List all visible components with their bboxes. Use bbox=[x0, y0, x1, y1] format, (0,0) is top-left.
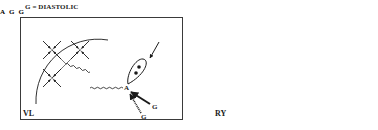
junction-label: A bbox=[124, 84, 129, 92]
wavy-axon bbox=[66, 63, 123, 88]
diagram-canvas: A G G bbox=[0, 0, 378, 130]
input-arrow-icon bbox=[150, 42, 159, 58]
nucleus-dot bbox=[137, 65, 141, 69]
cell-body bbox=[128, 59, 147, 84]
panel-label-ry: RY bbox=[215, 109, 226, 118]
arc-boundary bbox=[36, 39, 108, 104]
g-label: G bbox=[141, 113, 147, 121]
g-label: G bbox=[152, 103, 158, 111]
panel-label-vl: VL bbox=[23, 109, 34, 118]
nucleus-dot bbox=[134, 71, 138, 75]
panel-left: A G G bbox=[21, 18, 183, 122]
